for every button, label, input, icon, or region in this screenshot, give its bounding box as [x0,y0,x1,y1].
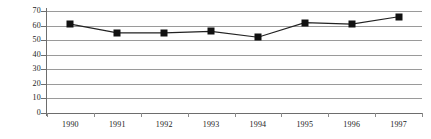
x-axis-tick-label: 1993 [188,120,234,129]
x-axis-tick-label: 1994 [235,120,281,129]
data-point-marker [208,28,215,35]
x-axis-tick-label: 1991 [94,120,140,129]
series-line [0,0,431,139]
data-point-marker [348,21,355,28]
data-point-marker [161,29,168,36]
data-point-marker [254,34,261,41]
x-axis-tick-label: 1995 [282,120,328,129]
line-chart: 70 60 50 40 30 20 10 0 [0,0,431,139]
data-point-marker [395,13,402,20]
x-axis-tick-label: 1996 [329,120,375,129]
data-point-marker [114,29,121,36]
x-axis-tick-label: 1992 [141,120,187,129]
x-axis-tick-label: 1990 [47,120,93,129]
data-point-marker [301,19,308,26]
x-axis-tick-label: 1997 [376,120,422,129]
data-point-marker [67,21,74,28]
